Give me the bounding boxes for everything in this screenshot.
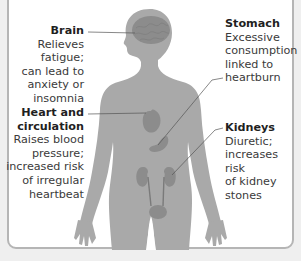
callout-brain-title: Brain (0, 24, 84, 38)
callout-stomach: Stomach Excessive consumption linked to … (225, 17, 295, 85)
callout-heart: Heart and circulation Raises blood press… (0, 106, 84, 201)
callout-kidneys-line-4: stones (225, 189, 297, 203)
callout-heart-line-2: pressure; (0, 147, 84, 161)
callout-kidneys-line-3: of kidney (225, 175, 297, 189)
callout-heart-title-1: Heart and (0, 106, 84, 120)
callout-brain: Brain Relieves fatigue; can lead to anxi… (0, 24, 84, 106)
callout-heart-line-5: heartbeat (0, 188, 84, 202)
callout-stomach-line-4: heartburn (225, 71, 295, 85)
callout-heart-line-1: Raises blood (0, 133, 84, 147)
callout-brain-line-2: can lead to (0, 65, 84, 79)
callout-kidneys: Kidneys Diuretic; increases risk of kidn… (225, 121, 297, 203)
callout-stomach-line-2: consumption (225, 44, 295, 58)
left-kidney-organ (136, 167, 148, 187)
callout-heart-line-4: of irregular (0, 174, 84, 188)
callout-brain-line-1: Relieves fatigue; (0, 38, 84, 65)
callout-brain-line-4: insomnia (0, 92, 84, 106)
callout-kidneys-title: Kidneys (225, 121, 297, 135)
callout-kidneys-line-2: increases risk (225, 148, 297, 175)
callout-heart-line-3: increased risk (0, 160, 84, 174)
callout-kidneys-line-1: Diuretic; (225, 135, 297, 149)
right-kidney-organ (164, 167, 176, 187)
callout-stomach-title: Stomach (225, 17, 295, 31)
callout-brain-line-3: anxiety or (0, 78, 84, 92)
callout-heart-title-2: circulation (0, 120, 84, 134)
callout-stomach-line-3: linked to (225, 58, 295, 72)
bladder-organ (149, 205, 167, 219)
callout-stomach-line-1: Excessive (225, 31, 295, 45)
